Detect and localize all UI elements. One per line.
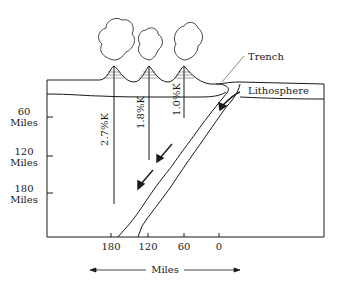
x-tick-120: 120 bbox=[138, 241, 158, 252]
motion-arrow-2 bbox=[160, 144, 172, 158]
y-label-60: 60 Miles bbox=[4, 106, 44, 128]
lithosphere-label: Lithosphere bbox=[248, 85, 309, 96]
potassium-label-1: 2.7%K bbox=[99, 110, 110, 150]
eruption-cloud-3 bbox=[174, 22, 202, 60]
potassium-label-3: 1.0%K bbox=[171, 80, 182, 120]
trench-label: Trench bbox=[248, 51, 284, 62]
eruption-cloud-2 bbox=[138, 28, 162, 60]
y-label-180: 180 Miles bbox=[4, 183, 44, 205]
potassium-label-2: 1.8%K bbox=[135, 93, 146, 133]
motion-arrow-3 bbox=[141, 170, 153, 184]
x-tick-0: 0 bbox=[209, 241, 229, 252]
x-tick-180: 180 bbox=[101, 241, 121, 252]
x-axis-label: Miles bbox=[148, 264, 182, 275]
y-label-120: 120 Miles bbox=[4, 146, 44, 168]
lithosphere-base-right bbox=[240, 97, 324, 99]
x-tick-60: 60 bbox=[174, 241, 194, 252]
trench-pointer bbox=[222, 56, 244, 82]
eruption-cloud-1 bbox=[99, 18, 135, 60]
motion-arrow-1 bbox=[222, 92, 240, 106]
subduction-diagram bbox=[0, 0, 339, 283]
